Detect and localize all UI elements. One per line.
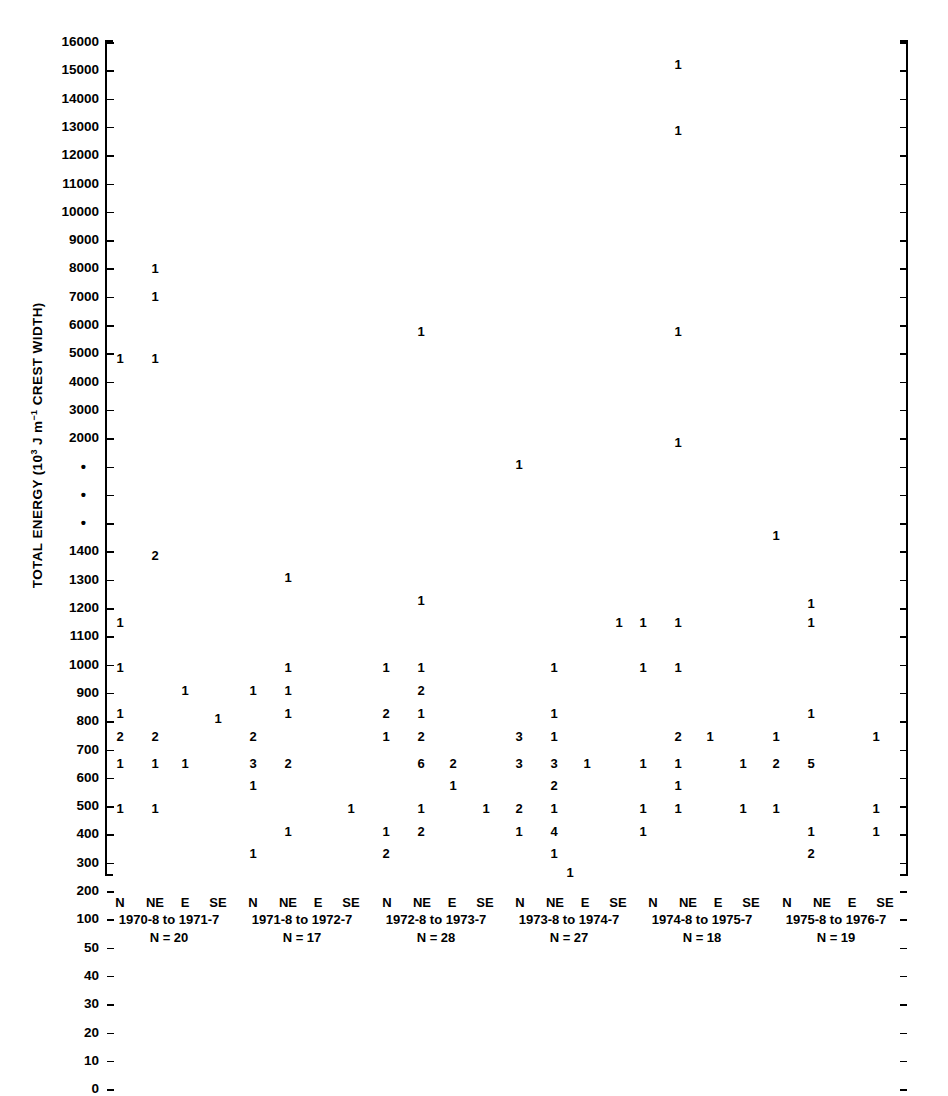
x-axis-direction-label: SE xyxy=(203,896,233,909)
y-axis-tick xyxy=(107,1033,114,1035)
data-point-count: 1 xyxy=(413,802,429,815)
data-point-count: 1 xyxy=(579,757,595,770)
data-point-count: 1 xyxy=(378,730,394,743)
y-axis-tick-right xyxy=(900,438,907,440)
y-axis-tick-right xyxy=(900,976,907,978)
y-axis-tick xyxy=(107,1061,114,1063)
y-axis-break-marker: • xyxy=(81,459,86,474)
data-point-count: 3 xyxy=(245,757,261,770)
data-point-count: 1 xyxy=(635,616,651,629)
y-axis-tick-label: 11000 xyxy=(62,177,99,191)
data-point-count: 1 xyxy=(868,730,884,743)
data-point-count: 1 xyxy=(112,707,128,720)
y-axis-tick-label: 50 xyxy=(84,941,99,955)
data-point-count: 1 xyxy=(768,529,784,542)
data-point-count: 1 xyxy=(378,825,394,838)
y-axis-tick-right xyxy=(900,693,907,695)
y-axis-tick-right xyxy=(900,806,907,808)
x-axis-direction-label: N xyxy=(772,896,802,909)
x-axis-sample-size-label: N = 17 xyxy=(242,931,362,944)
y-axis-tick-label: 40 xyxy=(84,969,99,983)
y-axis-tick xyxy=(107,297,114,299)
data-point-count: 1 xyxy=(413,594,429,607)
data-point-count: 1 xyxy=(868,802,884,815)
data-point-count: 1 xyxy=(803,825,819,838)
x-axis-direction-label: E xyxy=(437,896,467,909)
x-axis-direction-label: NE xyxy=(673,896,703,909)
y-axis-tick xyxy=(107,240,114,242)
data-point-count: 2 xyxy=(378,847,394,860)
data-point-count: 1 xyxy=(413,661,429,674)
data-point-count: 6 xyxy=(413,757,429,770)
data-point-count: 1 xyxy=(378,661,394,674)
x-axis-sample-size-label: N = 19 xyxy=(776,931,896,944)
y-axis-tick-label: 14000 xyxy=(61,92,99,106)
y-axis-tick-right xyxy=(900,212,907,214)
x-axis-direction-label: N xyxy=(238,896,268,909)
y-axis-tick-right xyxy=(900,155,907,157)
y-axis-tick-right xyxy=(900,495,907,497)
y-axis-title: TOTAL ENERGY (103 J m−1 CREST WIDTH) xyxy=(29,280,46,610)
y-axis-tick-label: 400 xyxy=(76,827,99,841)
y-axis-tick xyxy=(107,70,114,72)
y-axis-tick-label: 7000 xyxy=(69,290,99,304)
y-axis-tick xyxy=(107,155,114,157)
y-axis-tick-label: 8000 xyxy=(69,261,99,275)
data-point-count: 1 xyxy=(702,730,718,743)
y-axis-tick-right xyxy=(900,353,907,355)
data-point-count: 1 xyxy=(670,757,686,770)
data-point-count: 1 xyxy=(803,707,819,720)
data-point-count: 2 xyxy=(280,757,296,770)
x-axis-direction-label: E xyxy=(837,896,867,909)
data-point-count: 1 xyxy=(112,616,128,629)
y-axis-tick-right xyxy=(900,523,907,525)
y-axis-tick-right xyxy=(900,1004,907,1006)
y-axis-tick-label: 10 xyxy=(84,1054,99,1068)
y-axis-tick-right xyxy=(900,1089,907,1091)
data-point-count: 1 xyxy=(670,802,686,815)
data-point-count: 1 xyxy=(343,802,359,815)
y-axis-tick xyxy=(107,891,114,893)
y-axis-tick-right xyxy=(900,297,907,299)
data-point-count: 1 xyxy=(478,802,494,815)
y-axis-tick-label: 13000 xyxy=(61,120,99,134)
data-point-count: 1 xyxy=(511,825,527,838)
data-point-count: 1 xyxy=(546,730,562,743)
x-axis-direction-label: E xyxy=(170,896,200,909)
data-point-count: 1 xyxy=(735,757,751,770)
x-axis-direction-label: NE xyxy=(540,896,570,909)
data-point-count: 1 xyxy=(670,616,686,629)
y-axis-tick xyxy=(107,212,114,214)
y-axis-tick-right xyxy=(900,948,907,950)
data-point-count: 1 xyxy=(635,757,651,770)
x-axis-direction-label: NE xyxy=(807,896,837,909)
y-axis-tick-label: 5000 xyxy=(69,346,99,360)
data-point-count: 1 xyxy=(670,325,686,338)
x-axis-direction-label: SE xyxy=(470,896,500,909)
data-point-count: 2 xyxy=(147,549,163,562)
y-axis-tick xyxy=(107,750,114,752)
data-point-count: 1 xyxy=(562,866,578,879)
data-point-count: 3 xyxy=(511,757,527,770)
y-axis-tick-label: 0 xyxy=(91,1082,99,1096)
data-point-count: 1 xyxy=(670,124,686,137)
data-point-count: 1 xyxy=(112,757,128,770)
data-point-count: 1 xyxy=(546,847,562,860)
axis-end-cap xyxy=(105,874,113,876)
y-axis-tick-label: 1300 xyxy=(69,573,99,587)
y-axis-tick-label: 700 xyxy=(76,743,99,757)
y-axis-tick xyxy=(107,438,114,440)
y-axis-tick xyxy=(107,636,114,638)
axis-end-cap xyxy=(105,40,113,42)
data-point-count: 1 xyxy=(635,661,651,674)
data-point-count: 1 xyxy=(147,757,163,770)
data-point-count: 2 xyxy=(445,757,461,770)
y-axis-tick-right xyxy=(900,410,907,412)
y-axis-tick-right xyxy=(900,240,907,242)
y-axis-tick-right xyxy=(900,778,907,780)
data-point-count: 1 xyxy=(413,707,429,720)
data-point-count: 1 xyxy=(280,825,296,838)
y-axis-tick xyxy=(107,976,114,978)
data-point-count: 1 xyxy=(245,847,261,860)
